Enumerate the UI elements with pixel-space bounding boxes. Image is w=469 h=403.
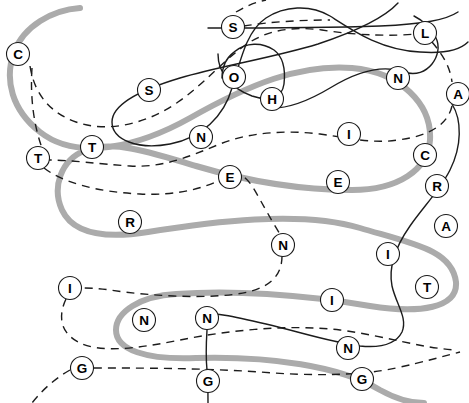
thread-path-dash-10	[236, 0, 266, 12]
letter-node-n-n25[interactable]: N	[196, 307, 219, 330]
node-circle	[351, 368, 374, 391]
letter-node-r-n16[interactable]: R	[426, 175, 449, 198]
node-circle	[219, 166, 242, 189]
node-circle	[321, 289, 344, 312]
letter-node-t-n09[interactable]: T	[81, 136, 104, 159]
letter-node-n-n24[interactable]: N	[133, 309, 156, 332]
letter-node-t-n23[interactable]: T	[416, 276, 439, 299]
node-circle	[81, 136, 104, 159]
node-circle	[327, 171, 350, 194]
letter-node-i-n11[interactable]: I	[338, 123, 361, 146]
node-circle	[377, 243, 400, 266]
node-circle	[119, 211, 142, 234]
threads-layer	[10, 0, 468, 403]
node-circle	[196, 307, 219, 330]
node-circle	[133, 309, 156, 332]
node-circle	[338, 123, 361, 146]
thread-path-dash-3	[48, 106, 452, 166]
node-circle	[272, 234, 295, 257]
letter-node-t-n12[interactable]: T	[27, 147, 50, 170]
node-circle	[414, 144, 437, 167]
node-circle	[27, 147, 50, 170]
node-circle	[337, 337, 360, 360]
letter-node-a-n18[interactable]: A	[435, 215, 458, 238]
thread-diagram: CSLSOHNATNITCEERRANIIITNNNGGG	[0, 0, 469, 403]
letter-node-i-n21[interactable]: I	[59, 277, 82, 300]
thread-path-dash-11	[244, 20, 330, 26]
thread-path-dash-2	[432, 42, 452, 82]
letter-node-i-n20[interactable]: I	[377, 243, 400, 266]
letter-node-g-n28[interactable]: G	[197, 370, 220, 393]
letter-node-e-n14[interactable]: E	[219, 166, 242, 189]
letter-node-c-n13[interactable]: C	[414, 144, 437, 167]
node-circle	[197, 370, 220, 393]
letter-node-g-n27[interactable]: G	[71, 357, 94, 380]
node-circle	[71, 357, 94, 380]
node-circle	[387, 67, 410, 90]
letter-node-i-n22[interactable]: I	[321, 289, 344, 312]
node-circle	[447, 83, 469, 106]
node-circle	[223, 66, 246, 89]
node-circle	[416, 276, 439, 299]
letter-node-n-n10[interactable]: N	[190, 126, 213, 149]
letter-node-r-n17[interactable]: R	[119, 211, 142, 234]
diagram-canvas: CSLSOHNATNITCEERRANIIITNNNGGG	[0, 0, 469, 403]
letter-node-a-n08[interactable]: A	[447, 83, 469, 106]
letter-node-h-n06[interactable]: H	[261, 88, 284, 111]
node-circle	[426, 175, 449, 198]
letter-node-l-n03[interactable]: L	[414, 22, 437, 45]
node-circle	[222, 16, 245, 39]
node-circle	[190, 126, 213, 149]
letter-node-g-n29[interactable]: G	[351, 368, 374, 391]
node-circle	[59, 277, 82, 300]
thread-path-dash-9	[32, 370, 70, 403]
letter-node-n-n26[interactable]: N	[337, 337, 360, 360]
letter-node-n-n07[interactable]: N	[387, 67, 410, 90]
node-circle	[7, 43, 30, 66]
node-circle	[414, 22, 437, 45]
letter-node-o-n05[interactable]: O	[223, 66, 246, 89]
letter-node-e-n15[interactable]: E	[327, 171, 350, 194]
letter-node-s-n02[interactable]: S	[222, 16, 245, 39]
letter-node-c-n01[interactable]: C	[7, 43, 30, 66]
node-circle	[435, 215, 458, 238]
letter-node-s-n04[interactable]: S	[138, 79, 161, 102]
node-circle	[138, 79, 161, 102]
node-circle	[261, 88, 284, 111]
letter-node-n-n19[interactable]: N	[272, 234, 295, 257]
